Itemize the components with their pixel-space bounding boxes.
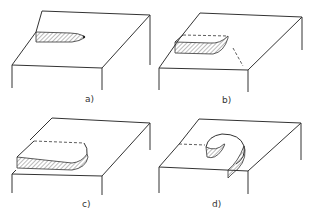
block-outline [12,11,150,90]
panel-label-b: b) [222,95,231,105]
chip-edge [175,35,183,42]
diagram-canvas: a) b) c) d) [0,0,312,221]
panel-label-c: c) [82,199,90,209]
block-outline [12,118,150,195]
chip-hatched [36,32,84,42]
curl-inner-hatched [206,144,225,158]
chip-edge [17,141,87,157]
dashed-line [233,48,243,66]
dashed-edge [179,144,205,145]
chip-hatched [17,154,88,170]
panel-d: d) [159,119,301,209]
panel-b: b) [159,13,302,105]
panel-label-a: a) [85,94,94,104]
chip-hatched [175,36,228,54]
panel-a: a) [12,11,150,104]
panel-c: c) [12,118,150,209]
block-outline [159,119,301,194]
chip-hatched [228,146,245,178]
dashed-edge [34,141,84,143]
cutting-point [83,36,85,38]
panel-label-d: d) [212,199,221,209]
dashed-edge [183,35,228,36]
